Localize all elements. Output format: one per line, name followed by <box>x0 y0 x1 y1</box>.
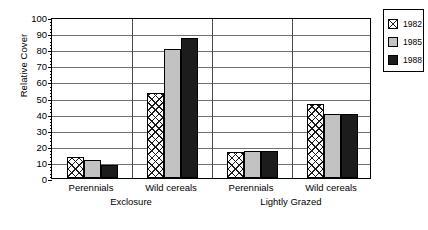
chart-figure: Relative Cover 0102030405060708090100 Pe… <box>0 0 428 230</box>
bar-1985 <box>244 151 261 178</box>
bar-1988 <box>261 151 278 178</box>
x-axis-category-label: Perennials <box>229 182 274 193</box>
bar-1985 <box>324 114 341 178</box>
x-axis-category-label: Wild cereals <box>145 182 197 193</box>
bar-1985 <box>84 160 101 178</box>
legend-swatch-1988-icon <box>388 55 398 65</box>
plot-area: 0102030405060708090100 <box>51 18 371 179</box>
bar-group <box>52 19 132 178</box>
bar-1982 <box>147 93 164 178</box>
bar-1985 <box>164 49 181 178</box>
legend-item: 1982 <box>388 15 423 33</box>
bar-1982 <box>227 152 244 178</box>
bar-group <box>132 19 212 178</box>
bar-1982 <box>307 104 324 178</box>
bar-1988 <box>181 38 198 178</box>
bar-1988 <box>341 114 358 178</box>
legend-label: 1982 <box>403 20 422 29</box>
bar-group <box>212 19 292 178</box>
x-axis-group-label: Lightly Grazed <box>260 196 321 207</box>
x-axis-group-label: Exclosure <box>110 196 152 207</box>
legend-label: 1988 <box>403 56 422 65</box>
legend-label: 1985 <box>403 38 422 47</box>
bar-1988 <box>101 165 118 178</box>
legend-swatch-1985-icon <box>388 37 398 47</box>
legend-swatch-1982-icon <box>388 19 398 29</box>
bar-group <box>292 19 372 178</box>
legend-item: 1985 <box>388 33 423 51</box>
x-axis-category-label: Perennials <box>69 182 114 193</box>
bar-1982 <box>67 157 84 178</box>
x-axis-category-label: Wild cereals <box>305 182 357 193</box>
chart-legend: 1982 1985 1988 <box>383 9 424 72</box>
legend-item: 1988 <box>388 51 423 69</box>
y-axis-title: Relative Cover <box>18 1 29 131</box>
